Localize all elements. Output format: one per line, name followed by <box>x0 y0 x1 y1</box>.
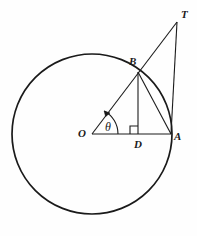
label-point-b: B <box>129 56 136 67</box>
label-point-a: A <box>174 131 181 142</box>
label-point-o: O <box>78 128 86 139</box>
segment-tangent-TA <box>171 22 177 134</box>
label-angle-theta: θ <box>105 121 111 133</box>
right-angle-marker <box>130 126 138 134</box>
figure-canvas <box>0 0 197 236</box>
label-point-t: T <box>181 9 188 20</box>
label-point-d: D <box>134 139 142 150</box>
geometry-figure: O A B T D θ <box>0 0 197 236</box>
segment-ray-OT <box>92 22 177 134</box>
